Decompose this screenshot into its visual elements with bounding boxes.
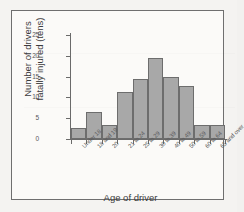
x-tick (71, 140, 72, 144)
bar (163, 77, 178, 139)
bars-group (71, 35, 225, 139)
y-tick-label: 5 (17, 114, 39, 121)
x-category-label: 20 (111, 140, 120, 149)
y-tick-label: 25 (17, 31, 39, 38)
bar (148, 58, 163, 139)
bar (117, 92, 132, 139)
y-tick-label: 15 (17, 73, 39, 80)
y-tick-label: 20 (17, 52, 39, 59)
chart-frame: Number of drivers fatally injured (tens)… (11, 10, 224, 200)
histogram-figure: Number of drivers fatally injured (tens)… (0, 0, 237, 212)
x-axis-title: Age of driver (12, 192, 237, 203)
bar (71, 128, 86, 139)
y-tick-label: 10 (17, 93, 39, 100)
y-tick-label: 0 (17, 135, 39, 142)
